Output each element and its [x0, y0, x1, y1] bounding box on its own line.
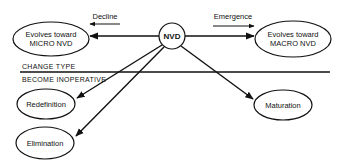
- nvd-evolution-diagram: CHANGE TYPE BECOME INOPERATIVE NVD Evolv…: [0, 0, 343, 164]
- change-type-label: CHANGE TYPE: [22, 63, 75, 70]
- micro-line2: MICRO NVD: [30, 39, 74, 48]
- micro-line1: Evolves toward: [26, 30, 77, 39]
- macro-line2: MACRO NVD: [270, 39, 316, 48]
- become-inoperative-label: BECOME INOPERATIVE: [22, 76, 106, 83]
- maturation-label: Maturation: [265, 101, 300, 110]
- nvd-label: NVD: [164, 32, 181, 41]
- maturation-node: Maturation: [254, 90, 312, 120]
- edge-to-elimination: [76, 47, 164, 136]
- macro-line1: Evolves toward: [268, 30, 319, 39]
- emergence-label: Emergence: [214, 12, 252, 21]
- micro-nvd-node: Evolves toward MICRO NVD: [13, 22, 89, 56]
- macro-nvd-node: Evolves toward MACRO NVD: [255, 21, 331, 57]
- redefinition-node: Redefinition: [17, 89, 75, 119]
- elimination-label: Elimination: [27, 139, 64, 148]
- decline-label: Decline: [92, 12, 117, 21]
- redefinition-label: Redefinition: [26, 100, 66, 109]
- nvd-node: NVD: [159, 23, 185, 49]
- elimination-node: Elimination: [16, 127, 74, 159]
